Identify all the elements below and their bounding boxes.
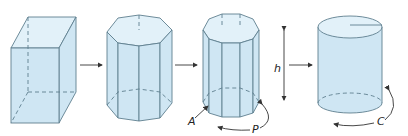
cylinder [318,16,382,113]
area-label: A [187,115,196,128]
height-label: h [274,62,281,75]
circumference-arrow [385,90,394,120]
perimeter-label: P [252,123,259,136]
diagram: A P h C [0,0,408,136]
rectangular-prism [11,17,76,123]
area-pointer [195,106,208,118]
perimeter-arrow [260,104,269,128]
hexagonal-prism [107,15,172,121]
prism-to-cylinder-diagram: A P h C [0,0,408,136]
octagonal-prism [203,14,259,117]
circumference-label: C [377,115,385,128]
